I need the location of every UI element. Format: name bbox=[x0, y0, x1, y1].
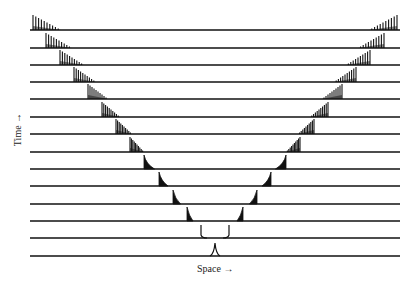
time-slice bbox=[30, 190, 400, 204]
time-slice bbox=[30, 33, 400, 48]
time-slice bbox=[30, 119, 400, 134]
time-slice bbox=[30, 67, 400, 82]
time-slice bbox=[30, 155, 400, 169]
time-slice bbox=[30, 207, 400, 221]
time-slice bbox=[30, 84, 400, 99]
spacetime-wave-diagram bbox=[0, 0, 417, 286]
time-slice bbox=[30, 243, 400, 256]
time-slice bbox=[30, 172, 400, 186]
x-axis-label: Space → bbox=[197, 263, 233, 274]
time-slice bbox=[30, 137, 400, 152]
time-slice bbox=[30, 50, 400, 65]
time-slice bbox=[30, 15, 400, 30]
y-axis-label: Time → bbox=[12, 107, 23, 153]
time-slice bbox=[30, 225, 400, 238]
time-slice bbox=[30, 102, 400, 117]
